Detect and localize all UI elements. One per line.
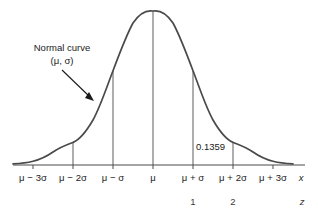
x-axis-ticks — [33, 165, 273, 169]
x-tick-label-minus-2sigma: μ − 2σ — [59, 172, 87, 183]
x-tick-label-plus-sigma: μ + σ — [182, 172, 205, 183]
x-tick-label-plus-3sigma: μ + 3σ — [259, 172, 287, 183]
x-tick-label-plus-2sigma: μ + 2σ — [219, 172, 247, 183]
x-tick-label-minus-sigma: μ − σ — [102, 172, 125, 183]
normal-curve-figure: Normal curve (μ, σ) 0.1359 μ − 3σ μ − 2σ… — [0, 0, 318, 223]
callout-arrow — [62, 70, 94, 101]
x-tick-label-minus-3sigma: μ − 3σ — [19, 172, 47, 183]
normal-curve-plot — [0, 0, 318, 223]
annotation-line-1: Normal curve — [34, 42, 91, 53]
z-tick-label-1: 1 — [190, 196, 195, 207]
annotation-line-2: (μ, σ) — [51, 55, 74, 66]
x-axis-name-label: x — [299, 172, 304, 183]
z-tick-label-2: 2 — [230, 196, 235, 207]
z-axis-name-label: z — [300, 196, 305, 207]
area-probability-label: 0.1359 — [196, 141, 225, 152]
x-tick-label-mu: μ — [150, 172, 156, 183]
